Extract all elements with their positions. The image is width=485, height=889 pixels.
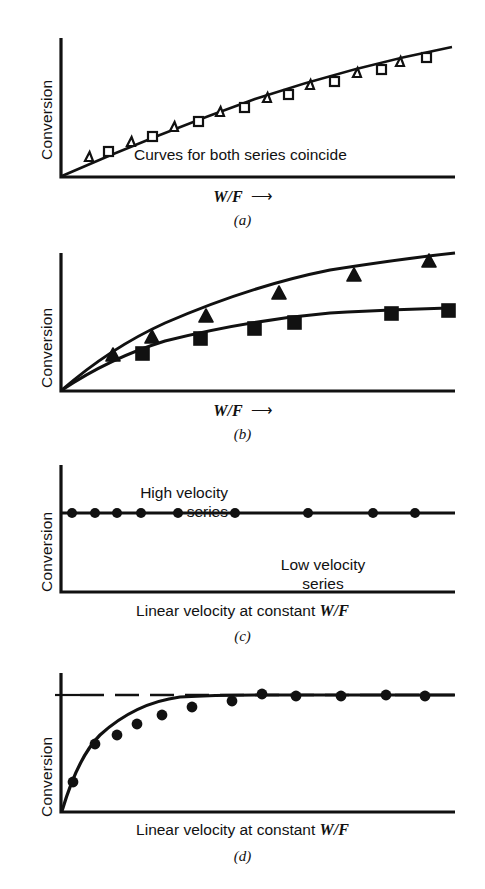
panel-a-caption: (a) <box>0 212 485 229</box>
panel-a-y-axis-label: Conversion <box>38 80 56 160</box>
panel-b-x-axis-arrow-icon: ⟶ <box>243 402 272 418</box>
figure-four-panel-conversion: Conversion Curves for both series coinci… <box>0 0 485 889</box>
panel-d-markers <box>68 689 431 788</box>
panel-b-x-axis-label-text: W/F <box>213 402 242 419</box>
panel-a-square-markers <box>104 53 431 156</box>
panel-c-x-axis-label-wf: W/F <box>320 602 349 619</box>
panel-d-x-axis-label: Linear velocity at constant W/F <box>0 821 485 839</box>
panel-b: Conversion High velocity series Low velo… <box>0 228 485 443</box>
panel-c-caption: (c) <box>0 628 485 645</box>
panel-c-axes <box>61 465 455 592</box>
panel-b-low-velocity-markers <box>136 304 455 360</box>
panel-c: Conversion Linear velocity at constant W… <box>0 440 485 645</box>
panel-d-curve <box>62 695 455 811</box>
panel-c-x-axis-label: Linear velocity at constant W/F <box>0 602 485 620</box>
panel-c-y-axis-label: Conversion <box>38 512 56 592</box>
panel-a-x-axis-label: W/F⟶ <box>0 188 485 206</box>
panel-b-x-axis-label: W/F⟶ <box>0 402 485 420</box>
panel-a-x-axis-label-text: W/F <box>213 188 242 205</box>
panel-b-y-axis-label: Conversion <box>38 308 56 388</box>
panel-d-x-axis-label-prefix: Linear velocity at constant <box>136 821 320 838</box>
panel-d-y-axis-label: Conversion <box>38 737 56 817</box>
panel-a-x-axis-arrow-icon: ⟶ <box>243 188 272 204</box>
panel-c-x-axis-label-prefix: Linear velocity at constant <box>136 602 320 619</box>
panel-d-caption: (d) <box>0 848 485 865</box>
panel-a-annotation-coincide: Curves for both series coincide <box>134 146 347 165</box>
panel-a: Conversion Curves for both series coinci… <box>0 0 485 235</box>
panel-d-x-axis-label-wf: W/F <box>320 821 349 838</box>
panel-d: Conversion Linear velocity at constant W… <box>0 645 485 889</box>
